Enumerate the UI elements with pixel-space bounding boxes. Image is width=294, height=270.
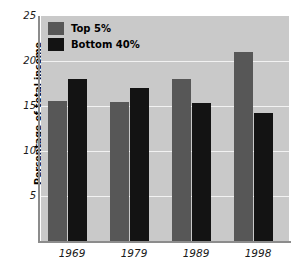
bar-chart: Percentage of total income 252015105 Top… bbox=[0, 0, 294, 270]
x-tick-label-1998: 1998 bbox=[232, 247, 284, 259]
legend-swatch-top5-icon bbox=[48, 22, 64, 35]
bar-1989-bottom40 bbox=[192, 103, 211, 241]
legend-swatch-bottom40-icon bbox=[48, 38, 64, 51]
x-axis-tick-labels: 1969197919891998 bbox=[41, 247, 289, 267]
bar-1989-top5 bbox=[172, 79, 191, 241]
bar-1998-top5 bbox=[234, 52, 253, 241]
y-axis-tick-labels: 252015105 bbox=[8, 0, 36, 270]
bar-1969-top5 bbox=[48, 101, 67, 241]
legend-label-top5: Top 5% bbox=[71, 23, 111, 34]
y-tick-label-5: 5 bbox=[12, 191, 36, 201]
y-tick-label-10: 10 bbox=[12, 146, 36, 156]
y-axis-line bbox=[38, 16, 40, 242]
y-tick-label-20: 20 bbox=[12, 56, 36, 66]
plot-area: Top 5% Bottom 40% bbox=[41, 16, 289, 241]
legend-item-bottom40: Bottom 40% bbox=[48, 38, 140, 51]
x-tick-label-1969: 1969 bbox=[46, 247, 98, 259]
y-tick-label-25: 25 bbox=[12, 11, 36, 21]
chart-legend: Top 5% Bottom 40% bbox=[48, 22, 140, 54]
bar-group-1998 bbox=[227, 16, 289, 241]
y-tick-label-15: 15 bbox=[12, 101, 36, 111]
legend-item-top5: Top 5% bbox=[48, 22, 140, 35]
x-axis-line bbox=[38, 241, 291, 243]
bar-group-1989 bbox=[165, 16, 227, 241]
legend-label-bottom40: Bottom 40% bbox=[71, 39, 140, 50]
x-tick-label-1979: 1979 bbox=[108, 247, 160, 259]
x-tick-label-1989: 1989 bbox=[170, 247, 222, 259]
bar-1979-bottom40 bbox=[130, 88, 149, 241]
bar-1998-bottom40 bbox=[254, 113, 273, 241]
bar-1969-bottom40 bbox=[68, 79, 87, 241]
bar-1979-top5 bbox=[110, 102, 129, 241]
